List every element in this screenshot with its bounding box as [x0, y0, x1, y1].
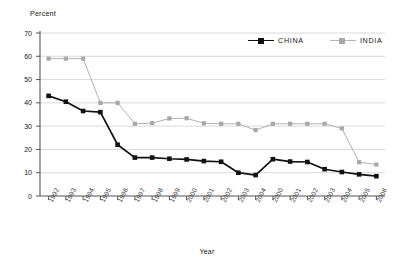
y-tick-label: 60	[10, 53, 32, 60]
y-tick-label: 30	[10, 123, 32, 130]
gridlines-group	[40, 33, 385, 173]
legend-item-india[interactable]: INDIA	[330, 36, 383, 45]
legend-label-india: INDIA	[360, 36, 383, 45]
legend-label-china: CHINA	[278, 36, 304, 45]
legend-swatch-china-icon	[248, 36, 274, 45]
y-ticks-group	[36, 33, 40, 196]
x-axis-title: Year	[0, 248, 414, 255]
y-tick-label: 20	[10, 146, 32, 153]
y-tick-label: 40	[10, 99, 32, 106]
legend-item-china[interactable]: CHINA	[248, 36, 304, 45]
y-tick-label: 10	[10, 169, 32, 176]
chart-legend: CHINA INDIA	[248, 36, 383, 45]
y-tick-label: 70	[10, 30, 32, 37]
chart-container: Percent 010203040506070 1992199319941995…	[0, 0, 414, 269]
series-line-china	[46, 94, 378, 179]
legend-swatch-india-icon	[330, 36, 356, 45]
y-tick-label: 0	[10, 193, 32, 200]
y-tick-label: 50	[10, 76, 32, 83]
